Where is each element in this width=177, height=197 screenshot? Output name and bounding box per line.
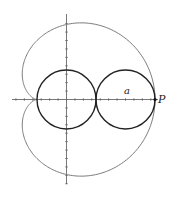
radius-label: a bbox=[124, 85, 130, 96]
point-p-marker bbox=[153, 98, 156, 101]
cardioid-diagram: a P bbox=[0, 0, 177, 197]
axis-ticks bbox=[16, 24, 151, 184]
axes bbox=[12, 14, 158, 184]
point-label: P bbox=[157, 93, 166, 106]
